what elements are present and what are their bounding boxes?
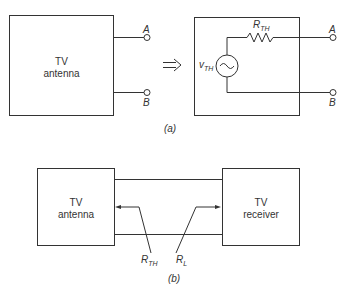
rth-label-a: RTH <box>253 19 270 32</box>
rl-label: RL <box>176 254 187 267</box>
diagram-lines <box>0 0 346 289</box>
rth-label-b: RTH <box>141 254 158 267</box>
terminal-a-label-right: A <box>329 24 336 35</box>
terminal-b-label: B <box>143 97 150 108</box>
antenna-label-a: TVantenna <box>9 56 114 80</box>
caption-b: (b) <box>164 273 184 285</box>
receiver-label: TVreceiver <box>222 197 300 221</box>
terminal-b-label-right: B <box>329 97 336 108</box>
terminal-a-label: A <box>143 24 150 35</box>
caption-a: (a) <box>160 123 180 135</box>
thevenin-diagram: TVantenna A B RTH vTH A B (a) TVantenna … <box>0 0 346 289</box>
antenna-label-b: TVantenna <box>37 197 115 221</box>
vth-label: vTH <box>199 59 213 72</box>
